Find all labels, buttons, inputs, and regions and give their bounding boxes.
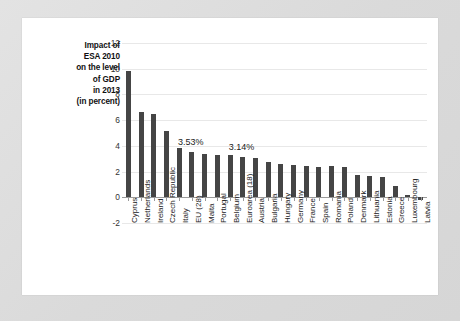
bar[interactable] [266, 162, 271, 197]
x-axis-tickmark [179, 197, 180, 201]
x-axis-tickmark [243, 197, 244, 201]
x-axis-tickmark [383, 197, 384, 201]
y-axis-tick-label: 12 [94, 39, 120, 47]
x-axis-category-label: Greece [398, 197, 406, 223]
x-axis-tickmark [141, 197, 142, 201]
x-axis-category-label: Poland [347, 198, 355, 223]
bar[interactable] [202, 154, 207, 197]
x-axis-category-label: Romania [335, 191, 343, 223]
x-axis-category-label: Lithuania [373, 191, 381, 223]
gridline [122, 94, 427, 95]
y-axis-tick-label: 6 [94, 116, 120, 124]
x-axis-tickmark [268, 197, 269, 201]
chart-title-line-4: of GDP [36, 74, 120, 85]
x-axis-tickmark [370, 197, 371, 201]
bar[interactable] [316, 167, 321, 197]
bar[interactable] [151, 114, 156, 198]
x-axis-tickmark [230, 197, 231, 201]
x-axis-category-label: Denmark [360, 191, 368, 223]
bar[interactable] [126, 71, 131, 197]
x-axis-category-label: Cyprus [131, 198, 139, 223]
x-axis-tickmark [319, 197, 320, 201]
x-axis-tickmark [154, 197, 155, 201]
screenshot-root: Impact of ESA 2010 on the level of GDP i… [0, 0, 460, 321]
gridline [122, 43, 427, 44]
x-axis-category-label: Belgium [233, 194, 241, 223]
plot-area: -2024681012 CyprusNetherlandsIrelandCzec… [122, 43, 427, 223]
x-axis-category-label: Spain [322, 203, 330, 223]
x-axis-tickmark [192, 197, 193, 201]
gridline [122, 120, 427, 121]
x-axis-category-label: Estonia [386, 197, 394, 224]
chart-card: Impact of ESA 2010 on the level of GDP i… [22, 18, 438, 295]
y-axis-tick-label: 0 [94, 193, 120, 201]
gridline [122, 69, 427, 70]
gridline [122, 223, 427, 224]
x-axis-category-label: Euroarea (18) [246, 174, 254, 223]
bar[interactable] [215, 155, 220, 197]
chart-title-line-2: ESA 2010 [36, 51, 120, 62]
y-axis-tick-label: 10 [94, 65, 120, 73]
x-axis-tickmark [281, 197, 282, 201]
bar[interactable] [177, 148, 182, 197]
value-annotation: 3.14% [229, 143, 255, 152]
x-axis-category-label: Bulgaria [271, 194, 279, 223]
x-axis-category-label: France [309, 198, 317, 223]
x-axis-category-label: Malta [208, 204, 216, 224]
x-axis-category-label: Portugal [220, 193, 228, 223]
bar[interactable] [189, 152, 194, 197]
x-axis-tickmark [357, 197, 358, 201]
x-axis-category-label: Germany [297, 190, 305, 223]
x-axis-category-label: Austria [258, 198, 266, 223]
y-axis-tick-label: -2 [94, 219, 120, 227]
value-annotation: 3.53% [178, 138, 204, 147]
x-axis-tickmark [294, 197, 295, 201]
y-axis-tick-label: 2 [94, 168, 120, 176]
x-axis-category-label: Latvia [424, 202, 432, 223]
x-axis-category-label: Italy [182, 209, 190, 224]
x-axis-category-label: Netherlands [144, 180, 152, 223]
x-axis-category-label: Czech Republic [169, 167, 177, 223]
x-axis-tickmark [205, 197, 206, 201]
bar[interactable] [228, 155, 233, 197]
x-axis-category-label: Hungary [284, 193, 292, 223]
y-axis-tick-label: 4 [94, 142, 120, 150]
y-axis-tick-label: 8 [94, 90, 120, 98]
x-axis-category-label: Ireland [157, 199, 165, 223]
x-axis-tickmark [332, 197, 333, 201]
x-axis-tickmark [421, 197, 422, 201]
x-axis-category-label: Luxembourg [411, 179, 419, 223]
x-axis-category-label: EU (28) [195, 196, 203, 224]
x-axis-tickmark [408, 197, 409, 201]
